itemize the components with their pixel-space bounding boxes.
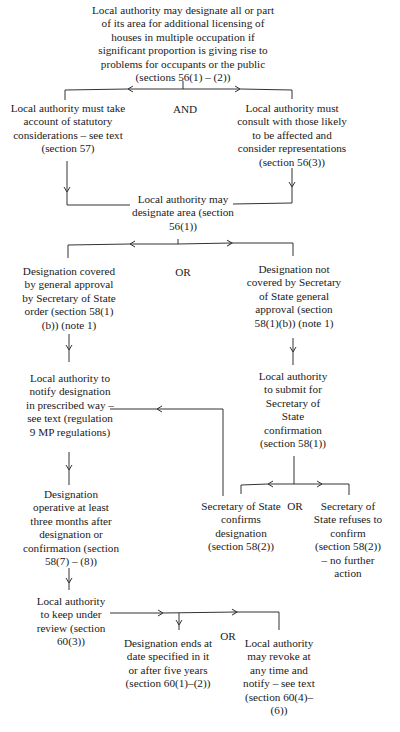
node-review: Local authority to keep under review (se… <box>36 595 106 649</box>
node-not-covered: Designation not covered by Secretary of … <box>245 263 343 330</box>
node-operative: Designation operative at least three mon… <box>22 488 120 568</box>
node-covered: Designation covered by general approval … <box>18 265 120 332</box>
node-consult: Local authority must consult with those … <box>236 102 348 169</box>
node-revoke: Local authority may revoke at any time a… <box>240 637 318 717</box>
edge-confirms-notify <box>110 409 223 496</box>
node-refuses: Secretary of State refuses to confirm (s… <box>312 500 384 580</box>
branch-review <box>110 612 279 630</box>
node-ends: Designation ends at date specified in it… <box>122 637 214 691</box>
node-designate: Local authority may designate area (sect… <box>130 193 236 233</box>
branch-designate <box>68 239 293 258</box>
node-statutory: Local authority must take account of sta… <box>10 102 126 156</box>
node-confirms: Secretary of State confirms designation … <box>200 500 282 554</box>
connector-and: AND <box>170 103 200 116</box>
connector-or-3: OR <box>216 630 240 643</box>
node-start: Local authority may designate all or par… <box>88 4 278 84</box>
connector-or-2: OR <box>284 500 306 513</box>
node-notify: Local authority to notify designation in… <box>26 372 114 439</box>
branch-submit <box>241 456 349 495</box>
connector-or-1: OR <box>170 266 196 279</box>
node-submit: Local authority to submit for Secretary … <box>257 370 329 450</box>
